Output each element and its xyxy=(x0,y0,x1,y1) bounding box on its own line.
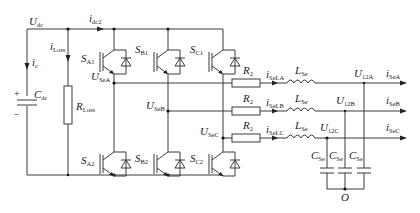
udc-label: Udc xyxy=(29,15,43,28)
iseb-label: iSeB xyxy=(386,94,401,107)
usea-label: USeA xyxy=(91,70,110,83)
r2-c-label: R2 xyxy=(242,119,253,132)
sa2-label: SA2 xyxy=(81,154,94,167)
usec-label: USeC xyxy=(200,125,219,138)
lse-c-label: LSe xyxy=(294,119,308,132)
u12a-label: U12A xyxy=(354,67,373,80)
u12c-label: U12C xyxy=(320,121,339,134)
minus-sign: − xyxy=(14,109,20,120)
r2-b-label: R2 xyxy=(242,92,253,105)
sb1-label: SB1 xyxy=(135,43,148,56)
rloss-label: RLoss xyxy=(75,100,95,113)
sc2-label: SC2 xyxy=(190,152,203,165)
idc2-label: idc2 xyxy=(89,12,101,25)
iloss-label: iLoss xyxy=(50,40,66,53)
lse-a-label: LSe xyxy=(294,64,308,77)
phase-a-line xyxy=(112,79,407,87)
ic-arrow-icon xyxy=(25,63,30,70)
useb-label: USeB xyxy=(146,99,165,112)
isela-label: iSeLA xyxy=(266,68,285,81)
isec-label: iSeC xyxy=(386,121,400,134)
neutral-o-label: O xyxy=(341,191,349,203)
plus-sign: + xyxy=(14,88,20,99)
cse-3-label: CSe xyxy=(349,149,363,162)
sc1-label: SC1 xyxy=(190,43,203,56)
sb2-label: SB2 xyxy=(135,152,148,165)
phase-c-line xyxy=(221,134,407,142)
phase-b-line xyxy=(166,107,407,115)
circuit-diagram: Udc idc2 ic iLoss Cdc + − RLoss SA1 SB1 … xyxy=(0,0,420,213)
leg-b xyxy=(154,29,185,176)
idc2-arrow-icon xyxy=(97,27,104,32)
iselb-label: iSeLB xyxy=(266,96,285,109)
ic-label: ic xyxy=(32,56,38,69)
r2-a-label: R2 xyxy=(242,64,253,77)
sa1-label: SA1 xyxy=(81,52,94,65)
cse-2-label: CSe xyxy=(329,149,343,162)
iselc-label: iSeLC xyxy=(266,123,284,136)
cdc-label: Cdc xyxy=(34,88,48,101)
isea-label: iSeA xyxy=(386,67,401,80)
leg-c xyxy=(209,29,240,176)
cse-1-label: CSe xyxy=(311,149,325,162)
u12b-label: U12B xyxy=(336,94,355,107)
lse-b-label: LSe xyxy=(294,92,308,105)
iloss-arrow-icon xyxy=(66,55,71,62)
leg-a xyxy=(100,29,131,176)
